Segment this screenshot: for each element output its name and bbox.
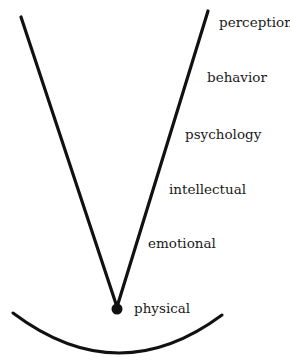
label-behavior: behavior [207,69,267,85]
label-intellectual: intellectual [169,181,246,197]
label-emotional: emotional [148,235,216,251]
label-physical: physical [134,300,190,316]
v-cone-diagram: perception behavior psychology intellect… [0,0,290,362]
base-arc [13,313,222,353]
label-psychology: psychology [185,126,262,142]
apex-dot [112,304,123,315]
right-cone-line [117,11,208,307]
left-cone-line [21,17,117,307]
label-perception: perception [219,14,290,30]
